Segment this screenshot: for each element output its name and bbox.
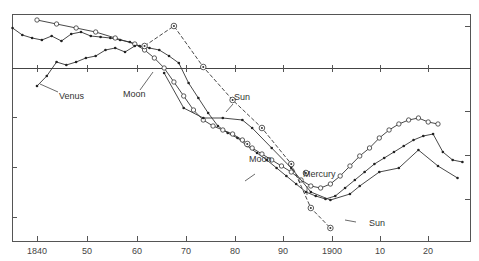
x-tick-1880: 80 [230, 246, 240, 256]
x-tick-1870: 70 [181, 246, 191, 256]
label-moon-lower: Moon [249, 154, 272, 164]
plot-frame [13, 15, 471, 242]
label-sun-upper: Sun [234, 92, 250, 102]
x-tick-labels: 1840 50 60 70 80 90 1900 10 20 [27, 246, 433, 256]
x-tick-1910: 10 [375, 246, 385, 256]
chart: 1840 50 60 70 80 90 1900 10 20 Venus Moo… [0, 0, 479, 261]
series-series-a-dots [11, 27, 463, 201]
x-tick-1850: 50 [82, 246, 92, 256]
x-tick-1840: 1840 [27, 246, 47, 256]
series-layer [11, 18, 463, 231]
label-sun-lower: Sun [369, 218, 385, 228]
label-moon-upper: Moon [123, 89, 146, 99]
label-mercury: Mercury [303, 169, 336, 179]
x-ticks [12, 27, 471, 242]
annotations [40, 72, 356, 222]
series-venus [36, 45, 136, 88]
series-series-b-circles [35, 18, 440, 190]
series-moon [244, 141, 250, 147]
x-tick-1860: 60 [132, 246, 142, 256]
label-venus: Venus [59, 91, 85, 101]
x-tick-1890: 90 [278, 246, 288, 256]
series-sun-dashed-circled [142, 23, 333, 231]
series-sun-lower [163, 72, 459, 202]
x-tick-1900: 1900 [322, 246, 342, 256]
x-tick-1920: 20 [423, 246, 433, 256]
